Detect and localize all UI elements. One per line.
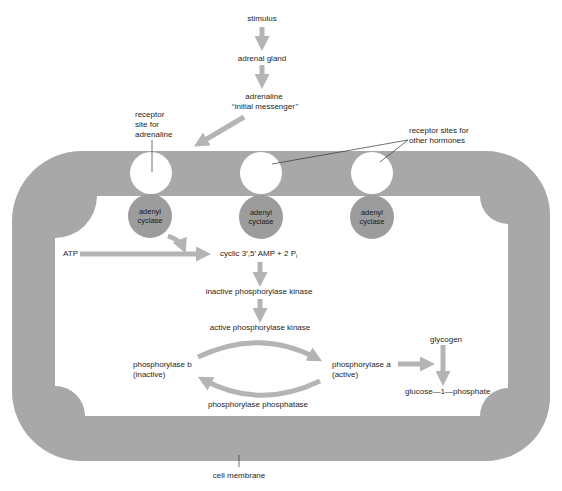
arrow-a-to-b (204, 380, 320, 395)
enzyme-line1: adenyl (239, 208, 283, 217)
receptor-site-other-2 (351, 152, 393, 194)
label-receptor-other-2: other hormones (409, 136, 465, 146)
label-phosphorylase-b-state: (inactive) (133, 370, 165, 380)
label-atp: ATP (63, 249, 78, 259)
label-inactive-kinase: inactive phosphorylase kinase (206, 287, 313, 297)
enzyme-line1: adenyl (128, 207, 172, 216)
label-adrenal-gland: adrenal gland (238, 54, 286, 64)
label-initial-messenger: ‘‘initial messenger’’ (231, 102, 298, 112)
label-stimulus: stimulus (247, 14, 276, 24)
cell-membrane (12, 151, 550, 461)
receptor-site-other-1 (240, 152, 282, 194)
receptor-site-adrenaline (130, 152, 172, 194)
enzyme-line2: cyclase (128, 216, 172, 225)
arrow-cyclase-to-camp (168, 236, 183, 247)
arrow-b-to-a (198, 343, 316, 358)
cyclic-amp-subscript: i (296, 253, 297, 259)
label-cell-membrane: cell membrane (213, 471, 265, 481)
cyclic-amp-text: cyclic 3′,5′ AMP + 2 P (220, 249, 296, 258)
adenyl-cyclase-label-1: adenyl cyclase (128, 207, 172, 225)
pathway-diagram (0, 0, 562, 491)
label-receptor-adrenaline-3: adrenaline (135, 130, 172, 140)
label-glucose-1-phosphate: glucose—1—phosphate (405, 387, 490, 397)
label-phosphorylase-b: phosphorylase b (133, 360, 192, 370)
enzyme-line1: adenyl (350, 208, 394, 217)
label-phosphorylase-a-state: (active) (332, 370, 358, 380)
label-cyclic-amp: cyclic 3′,5′ AMP + 2 Pi (220, 249, 297, 261)
enzyme-line2: cyclase (350, 217, 394, 226)
label-glycogen: glycogen (430, 335, 462, 345)
label-receptor-other-1: receptor sites for (409, 126, 469, 136)
phosphorylase-b-text: phosphorylase b (133, 360, 192, 369)
enzyme-line2: cyclase (239, 217, 283, 226)
arrow-adrenaline-to-receptor (200, 117, 244, 143)
adenyl-cyclase-label-2: adenyl cyclase (239, 208, 283, 226)
label-receptor-adrenaline-1: receptor (135, 110, 164, 120)
adenyl-cyclase-label-3: adenyl cyclase (350, 208, 394, 226)
label-adrenaline: adrenaline (245, 92, 282, 102)
label-phosphatase: phosphorylase phosphatase (208, 400, 308, 410)
label-active-kinase: active phosphorylase kinase (210, 323, 311, 333)
label-receptor-adrenaline-2: site for (135, 120, 159, 130)
label-phosphorylase-a: phosphorylase a (332, 360, 391, 370)
